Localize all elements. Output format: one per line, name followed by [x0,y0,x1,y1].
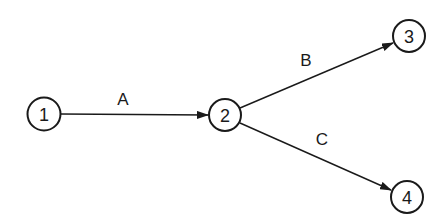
node-1-label: 1 [39,105,49,125]
edge-label-c: C [316,130,328,149]
node-4-label: 4 [402,188,412,208]
diagram-canvas: A B C 1 2 3 4 [0,0,446,222]
node-3: 3 [393,20,425,52]
edge-a-arrow [61,114,208,115]
node-1: 1 [28,98,61,131]
edge-label-b: B [300,51,311,70]
node-3-label: 3 [404,27,414,47]
edge-b-arrow [240,43,393,108]
node-2: 2 [209,99,241,131]
network-diagram: A B C 1 2 3 4 [0,0,446,222]
node-2-label: 2 [220,106,230,126]
node-4: 4 [391,181,423,213]
edge-label-a: A [117,90,129,109]
